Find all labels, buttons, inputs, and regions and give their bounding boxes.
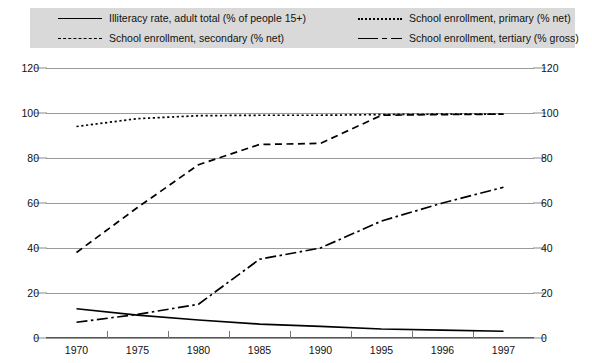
y-axis-label-left: 40 [27,242,39,254]
x-axis-label: 1996 [431,344,454,356]
x-axis-label: 1997 [492,344,515,356]
y-axis-label-right: 60 [541,197,553,209]
y-axis-label-left: 120 [21,62,39,74]
legend-label: School enrollment, primary (% net) [409,12,571,24]
legend-primary[interactable]: School enrollment, primary (% net) [306,12,579,24]
x-axis-label: 1990 [309,344,332,356]
y-axis-label-left: 60 [27,197,39,209]
y-axis-label-right: 80 [541,152,553,164]
x-axis-label: 1985 [248,344,271,356]
legend-label: School enrollment, tertiary (% gross) [409,32,579,44]
legend-swatch-solid-icon [58,14,102,23]
legend-label: Illiteracy rate, adult total (% of peopl… [109,12,306,24]
x-axis-label: 1975 [126,344,149,356]
series-lines [46,68,534,338]
y-axis-label-left: 80 [27,152,39,164]
x-axis-label: 1995 [370,344,393,356]
y-axis-label-left: 20 [27,287,39,299]
gridline [46,338,534,339]
legend-illiteracy[interactable]: Illiteracy rate, adult total (% of peopl… [30,12,306,24]
legend-tertiary[interactable]: School enrollment, tertiary (% gross) [306,32,579,44]
legend-label: School enrollment, secondary (% net) [109,32,284,44]
legend-swatch-dashed-icon [58,34,102,43]
y-axis-label-right: 40 [541,242,553,254]
y-axis-label-right: 100 [541,107,559,119]
chart-page: Illiteracy rate, adult total (% of peopl… [0,0,592,363]
series-line-solid [77,309,504,332]
y-axis-label-right: 120 [541,62,559,74]
legend-swatch-dashdot-icon [358,34,402,43]
chart-legend: Illiteracy rate, adult total (% of peopl… [30,8,575,48]
series-line-dashdot [77,187,504,322]
x-axis-label: 1970 [65,344,88,356]
plot-area: 002020404060608080100100120120 197019751… [46,68,534,338]
y-axis-label-right: 20 [541,287,553,299]
y-axis-label-left: 0 [33,332,39,344]
legend-swatch-dotted-icon [358,14,402,23]
x-axis-label: 1980 [187,344,210,356]
series-line-dotted [77,114,504,126]
legend-secondary[interactable]: School enrollment, secondary (% net) [30,32,306,44]
y-axis-label-left: 100 [21,107,39,119]
series-line-dashed [77,114,504,252]
y-axis-label-right: 0 [541,332,547,344]
